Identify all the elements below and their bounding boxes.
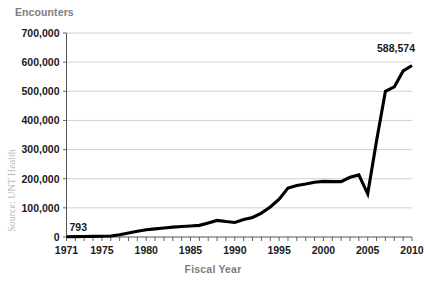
- y-axis-tick-label: 400,000: [22, 114, 60, 126]
- y-axis-tick-label: 300,000: [22, 143, 60, 155]
- x-axis-title: Fiscal Year: [0, 263, 426, 275]
- x-axis-tick-label: 1971: [55, 244, 79, 256]
- line-chart-plot: 700,000600,000500,000400,000300,000200,0…: [0, 0, 426, 284]
- annotation-start-value: 793: [70, 221, 88, 233]
- x-axis-tick-label: 1995: [267, 244, 291, 256]
- y-axis-tick-label: 200,000: [22, 173, 60, 185]
- x-axis-tick-label: 1990: [223, 244, 247, 256]
- y-axis-tick-label: 500,000: [22, 85, 60, 97]
- x-axis-tick-label: 1975: [90, 244, 114, 256]
- x-axis-tick-label: 1980: [135, 244, 159, 256]
- y-axis-tick-label: 0: [54, 231, 60, 243]
- y-axis-tick-label: 100,000: [22, 202, 60, 214]
- x-axis-tick-label: 2005: [356, 244, 380, 256]
- chart-figure: Encounters Source: UNT Health 700,000600…: [0, 0, 426, 284]
- y-axis-tick-label: 600,000: [22, 56, 60, 68]
- x-axis-tick-label: 2000: [312, 244, 336, 256]
- y-axis-tick-label: 700,000: [22, 27, 60, 39]
- x-axis-tick-label: 2010: [400, 244, 424, 256]
- x-axis-tick-label: 1985: [179, 244, 203, 256]
- annotation-end-value: 588,574: [377, 42, 415, 54]
